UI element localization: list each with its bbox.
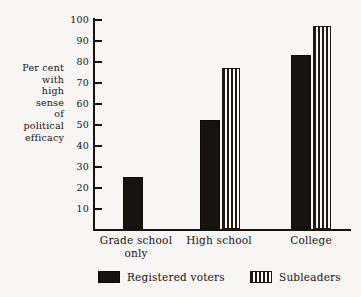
x-axis-category-label-high-school: High school (177, 234, 261, 247)
legend-item-registered-voters: Registered voters (98, 271, 225, 283)
category-label-line: College (272, 234, 350, 247)
y-axis-tick-label: 40 (63, 141, 89, 151)
y-axis-tick-label: 100 (63, 15, 89, 25)
bar-registered-voters-high-school (200, 120, 220, 229)
legend-swatch-solid-icon (98, 271, 120, 283)
category-label-line: High school (177, 234, 261, 247)
bar-registered-voters-grade-school (123, 177, 143, 229)
legend-item-subleaders: Subleaders (250, 271, 341, 283)
category-label-line: Grade school (88, 234, 184, 247)
y-axis-tick-label: 90 (63, 36, 89, 46)
legend-label: Registered voters (127, 271, 225, 283)
y-axis-tick-label: 10 (63, 204, 89, 214)
y-axis-tick-label: 70 (63, 78, 89, 88)
y-axis-tick (95, 103, 102, 105)
x-axis-category-label-grade-school: Grade school only (88, 234, 184, 259)
y-axis-tick (95, 145, 102, 147)
y-axis-tick (95, 166, 102, 168)
bar-registered-voters-college (291, 55, 311, 229)
y-axis-tick-label: 20 (63, 183, 89, 193)
y-axis-tick-label: 50 (63, 120, 89, 130)
y-axis-tick-label: 30 (63, 162, 89, 172)
bar-subleaders-high-school (222, 68, 240, 229)
bar-subleaders-college (313, 26, 331, 229)
y-axis-tick (95, 82, 102, 84)
y-axis-tick-label: 80 (63, 57, 89, 67)
y-axis-tick (95, 208, 102, 210)
y-axis-tick (95, 40, 102, 42)
x-axis-category-label-college: College (272, 234, 350, 247)
category-label-line: only (88, 247, 184, 260)
y-axis-tick-label: 60 (63, 99, 89, 109)
chart-legend: Registered voters Subleaders (0, 271, 361, 291)
y-axis-tick (95, 124, 102, 126)
bar-chart-figure: Per cent with high sense of political ef… (0, 0, 361, 297)
y-axis-tick (95, 61, 102, 63)
y-axis-tick (95, 19, 102, 21)
plot-area: 100 90 80 70 60 50 40 30 20 10 (0, 0, 361, 297)
legend-swatch-striped-icon (250, 271, 272, 283)
y-axis-tick (95, 187, 102, 189)
legend-label: Subleaders (279, 271, 341, 283)
x-axis-line (93, 229, 351, 231)
